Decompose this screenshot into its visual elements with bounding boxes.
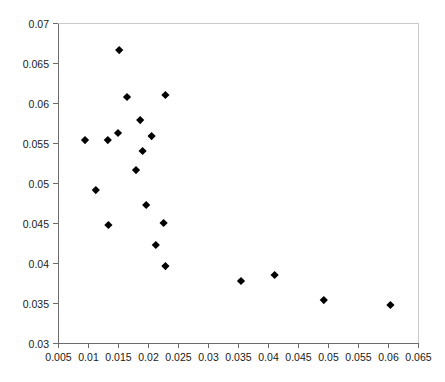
y-axis-tick-labels: 0.030.0350.040.0450.050.0550.060.0650.07 — [23, 18, 49, 350]
data-point — [160, 219, 168, 227]
x-tick-label: 0.065 — [405, 351, 431, 363]
x-tick-label: 0.055 — [345, 351, 371, 363]
y-tick-label: 0.03 — [29, 338, 50, 350]
scatter-chart-container: 0.0050.010.0150.020.0250.030.0350.040.04… — [0, 0, 445, 382]
x-tick-label: 0.005 — [45, 351, 71, 363]
data-point — [104, 221, 112, 229]
x-axis-ticks — [59, 343, 419, 348]
data-point — [161, 262, 169, 270]
y-tick-label: 0.05 — [29, 178, 50, 190]
x-tick-label: 0.045 — [285, 351, 311, 363]
data-point — [271, 271, 279, 279]
y-axis-ticks — [53, 24, 58, 344]
data-point — [81, 136, 89, 144]
data-point — [152, 241, 160, 249]
y-tick-label: 0.035 — [23, 298, 49, 310]
data-point — [161, 91, 169, 99]
x-tick-label: 0.03 — [198, 351, 219, 363]
x-tick-label: 0.05 — [318, 351, 339, 363]
x-tick-label: 0.035 — [225, 351, 251, 363]
x-axis-tick-labels: 0.0050.010.0150.020.0250.030.0350.040.04… — [45, 351, 431, 363]
x-tick-label: 0.025 — [165, 351, 191, 363]
data-point — [148, 132, 156, 140]
data-point — [114, 129, 122, 137]
data-point-group — [81, 46, 395, 309]
data-point — [237, 277, 245, 285]
plot-frame — [58, 23, 418, 343]
y-tick-label: 0.055 — [23, 138, 49, 150]
data-point — [92, 186, 100, 194]
data-point — [136, 116, 144, 124]
y-tick-label: 0.045 — [23, 218, 49, 230]
data-point — [132, 166, 140, 174]
y-tick-label: 0.06 — [29, 98, 50, 110]
data-point — [104, 136, 112, 144]
y-tick-label: 0.07 — [29, 18, 50, 30]
x-tick-label: 0.04 — [258, 351, 279, 363]
x-tick-label: 0.06 — [378, 351, 399, 363]
y-tick-label: 0.04 — [29, 258, 50, 270]
scatter-plot: 0.0050.010.0150.020.0250.030.0350.040.04… — [0, 0, 445, 382]
data-point — [320, 296, 328, 304]
data-point — [115, 46, 123, 54]
data-point — [386, 301, 394, 309]
data-point — [139, 147, 147, 155]
y-tick-label: 0.065 — [23, 58, 49, 70]
x-tick-label: 0.015 — [105, 351, 131, 363]
data-point — [123, 93, 131, 101]
x-tick-label: 0.01 — [78, 351, 99, 363]
data-point — [142, 201, 150, 209]
x-tick-label: 0.02 — [138, 351, 159, 363]
